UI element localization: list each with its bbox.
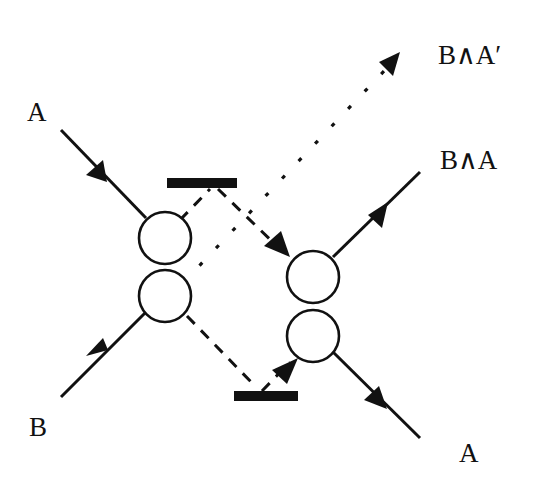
bottom-mirror-bar [234,391,298,401]
right-lower-node [287,310,339,362]
label-output-b-and-a: B∧A [440,145,498,175]
diagram-svg: A B B∧A′ B∧A A [0,0,539,482]
arrow-icon [86,160,107,182]
arrow-icon [272,358,298,384]
dashed-path-bottom [187,316,298,391]
input-line-b [61,313,145,397]
label-input-a: A [27,97,47,127]
arrow-icon [264,231,290,257]
arrow-icon [368,202,388,228]
arrow-icon [364,386,387,409]
output-line-b-and-a [333,172,420,257]
dashed-path-top [180,189,290,257]
left-lower-node [139,270,191,322]
right-upper-node [287,251,339,303]
label-input-b: B [29,412,47,442]
left-upper-node [139,212,191,264]
output-line-a [333,352,420,438]
input-line-a [61,130,146,218]
diagram-canvas: A B B∧A′ B∧A A [0,0,539,482]
dotted-path-b-and-a-prime [183,52,400,283]
label-output-a: A [459,438,479,468]
top-mirror-bar [167,178,237,188]
label-output-b-and-a-prime: B∧A′ [438,40,501,70]
